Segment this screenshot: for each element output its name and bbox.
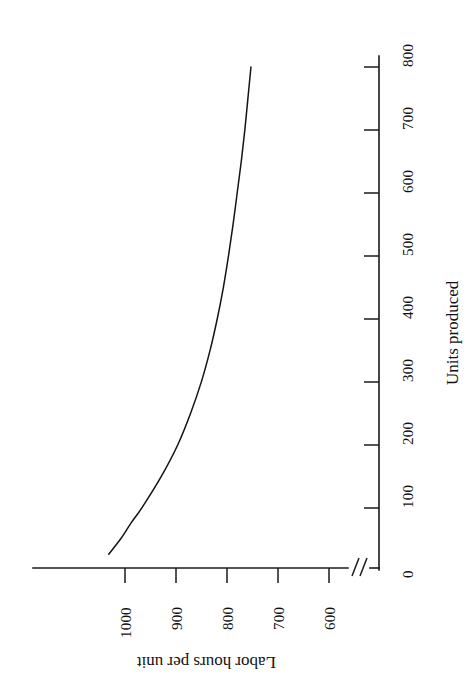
x-tick-label-100: 100 xyxy=(400,485,417,508)
y-tick-label-700: 700 xyxy=(271,607,288,630)
x-tick-label-200: 200 xyxy=(400,422,417,445)
axis-break-mark-1 xyxy=(352,558,359,576)
x-tick-label-400: 400 xyxy=(400,296,417,319)
learning-curve-line xyxy=(109,67,251,554)
chart-plot-area xyxy=(0,0,474,691)
y-tick-label-800: 800 xyxy=(220,607,237,630)
y-tick-label-1000: 1000 xyxy=(118,607,135,638)
x-tick-label-0: 0 xyxy=(400,570,417,578)
axis-break-mark-2 xyxy=(360,558,367,576)
x-tick-label-500: 500 xyxy=(400,233,417,256)
y-axis-title: Labor hours per unit xyxy=(137,652,276,672)
x-tick-label-600: 600 xyxy=(400,170,417,193)
x-tick-label-700: 700 xyxy=(400,107,417,130)
x-tick-label-300: 300 xyxy=(400,359,417,382)
y-tick-label-900: 900 xyxy=(169,607,186,630)
x-tick-label-800: 800 xyxy=(400,44,417,67)
chart-container: 800 700 600 500 400 300 200 100 0 1000 9… xyxy=(0,0,474,691)
x-axis-title: Units produced xyxy=(443,281,463,385)
y-tick-label-600: 600 xyxy=(322,607,339,630)
